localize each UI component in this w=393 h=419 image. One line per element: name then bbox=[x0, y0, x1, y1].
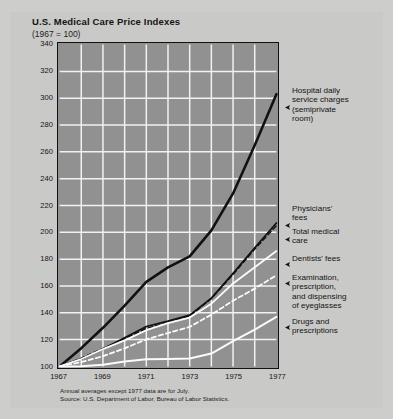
x-axis-tick: 1969 bbox=[88, 372, 116, 381]
y-axis-tick: 200 bbox=[40, 228, 53, 236]
callout-eyeglasses: Examination, prescription, and dispensin… bbox=[292, 273, 346, 310]
callout-pointer-icon bbox=[285, 273, 292, 280]
chart-footnote: Annual averages except 1977 data are for… bbox=[60, 387, 360, 403]
callout-pointer-icon bbox=[285, 229, 292, 236]
callout-dentists: Dentists' fees bbox=[292, 254, 340, 263]
plot-area bbox=[57, 42, 279, 369]
x-axis-tick: 1973 bbox=[176, 372, 204, 381]
y-axis-tick: 320 bbox=[40, 67, 53, 75]
footnote-line-1: Annual averages except 1977 data are for… bbox=[60, 387, 360, 395]
callout-pointer-icon bbox=[285, 215, 292, 222]
y-axis-tick: 140 bbox=[40, 309, 53, 317]
series-line bbox=[60, 223, 277, 366]
y-axis-tick: 100 bbox=[40, 363, 53, 371]
callout-total: Total medical care bbox=[292, 227, 339, 246]
x-axis-tick: 1967 bbox=[45, 372, 73, 381]
data-series-lines bbox=[58, 43, 278, 368]
y-axis-tick: 280 bbox=[40, 121, 53, 129]
y-axis-tick-labels: 100120140160180200220240260280300320340 bbox=[10, 12, 53, 408]
x-axis-tick: 1975 bbox=[220, 372, 248, 381]
x-axis-tick: 1971 bbox=[132, 372, 160, 381]
y-axis-tick: 220 bbox=[40, 202, 53, 210]
chart-title: U.S. Medical Care Price Indexes bbox=[32, 16, 180, 27]
callout-hospital: Hospital daily service charges (semipriv… bbox=[292, 86, 349, 123]
x-axis-tick-labels: 196719691971197319751977 bbox=[10, 372, 383, 386]
series-line bbox=[60, 94, 277, 366]
y-axis-tick: 300 bbox=[40, 94, 53, 102]
x-axis-tick: 1977 bbox=[263, 372, 291, 381]
y-axis-tick: 240 bbox=[40, 175, 53, 183]
chart-figure: U.S. Medical Care Price Indexes (1967 = … bbox=[10, 12, 383, 408]
callout-pointer-icon bbox=[285, 97, 292, 104]
callout-physicians: Physicians' fees bbox=[292, 204, 332, 223]
series-line bbox=[60, 226, 277, 367]
y-axis-tick: 120 bbox=[40, 336, 53, 344]
callout-drugs: Drugs and prescriptions bbox=[292, 317, 338, 336]
callout-pointer-icon bbox=[285, 254, 292, 261]
y-axis-tick: 160 bbox=[40, 282, 53, 290]
callout-pointer-icon bbox=[285, 317, 292, 324]
y-axis-tick: 180 bbox=[40, 255, 53, 263]
y-axis-tick: 340 bbox=[40, 40, 53, 48]
y-axis-tick: 260 bbox=[40, 148, 53, 156]
footnote-line-2: Source: U.S. Department of Labor, Bureau… bbox=[60, 395, 360, 403]
